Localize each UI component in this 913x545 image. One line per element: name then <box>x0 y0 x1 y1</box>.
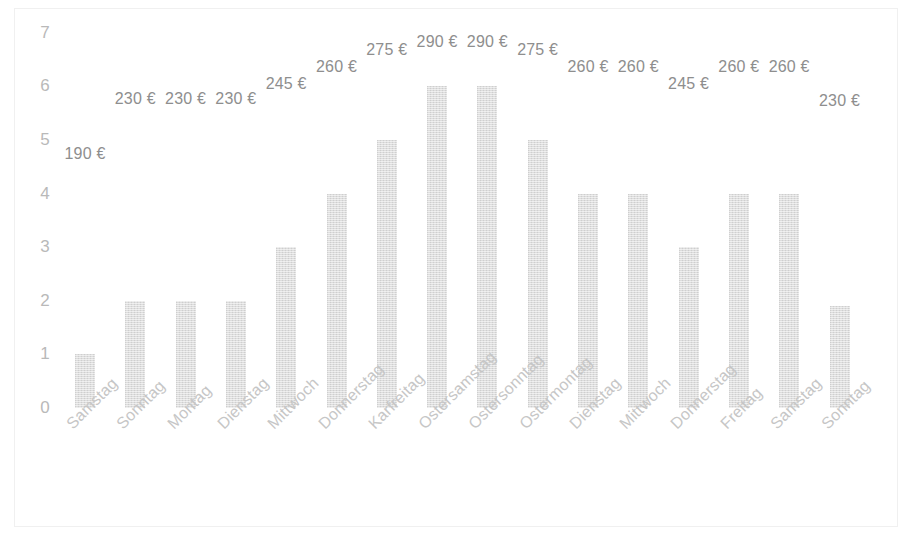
bar-data-label: 245 € <box>266 75 307 93</box>
bar-data-label: 260 € <box>769 58 810 76</box>
bar-data-label: 230 € <box>215 90 256 108</box>
y-axis-tick-label: 1 <box>40 344 50 364</box>
bar-data-label: 260 € <box>567 58 608 76</box>
bar-data-label: 275 € <box>517 41 558 59</box>
bar-data-label: 230 € <box>165 90 206 108</box>
bar[interactable] <box>276 247 296 408</box>
y-axis-tick-label: 3 <box>40 237 50 257</box>
y-axis-tick-label: 6 <box>40 76 50 96</box>
bar[interactable] <box>628 194 648 408</box>
bar-data-label: 260 € <box>316 58 357 76</box>
bar[interactable] <box>427 86 447 408</box>
x-axis: SamstagSonntagMontagDienstagMittwochDonn… <box>60 408 898 545</box>
bar-data-label: 260 € <box>618 58 659 76</box>
y-axis-tick-label: 4 <box>40 184 50 204</box>
bar[interactable] <box>679 247 699 408</box>
plot-area: 190 €230 €230 €230 €245 €260 €275 €290 €… <box>60 8 898 408</box>
bar-data-label: 275 € <box>366 41 407 59</box>
bar-data-label: 290 € <box>417 33 458 51</box>
bar-data-label: 230 € <box>819 92 860 110</box>
y-axis-tick-label: 5 <box>40 130 50 150</box>
y-axis-tick-label: 7 <box>40 23 50 43</box>
bar[interactable] <box>779 194 799 408</box>
bar-chart: 01234567 190 €230 €230 €230 €245 €260 €2… <box>0 0 913 545</box>
bar-data-label: 245 € <box>668 75 709 93</box>
bar-data-label: 260 € <box>718 58 759 76</box>
y-axis-tick-label: 0 <box>40 398 50 418</box>
bar-data-label: 290 € <box>467 33 508 51</box>
y-axis-tick-label: 2 <box>40 291 50 311</box>
bar-data-label: 190 € <box>64 145 105 163</box>
bar-data-label: 230 € <box>115 90 156 108</box>
bar[interactable] <box>327 194 347 408</box>
y-axis: 01234567 <box>14 8 60 527</box>
